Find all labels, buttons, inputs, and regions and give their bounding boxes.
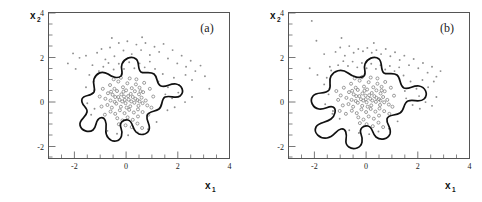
data-point [140,49,142,51]
data-point [347,65,349,67]
data-point [355,95,358,98]
y-ticklabel-a-3: -2 [37,143,44,152]
y-axis-ticks-a [49,13,56,157]
data-point [389,86,392,89]
data-point [339,47,341,49]
data-point [352,105,355,108]
data-point [135,44,137,46]
data-point [398,66,400,68]
data-point [123,112,126,115]
data-point [433,81,435,83]
data-point [96,52,98,54]
data-point [133,101,136,104]
data-point [383,101,386,104]
data-point [132,111,135,114]
y-axis-title-a: x [30,10,36,21]
data-point [387,103,390,106]
data-point [394,70,396,72]
data-point [101,87,104,90]
data-point [358,95,361,98]
data-point [130,100,133,103]
data-point [419,108,421,110]
data-point [141,126,144,129]
data-point [102,66,104,68]
data-point [384,69,386,71]
data-point [388,112,391,115]
data-point [141,102,144,105]
data-point [113,55,115,57]
y-ticklabel-b-3: -2 [277,143,284,152]
data-point [391,105,394,108]
data-point [337,98,340,101]
data-point [194,70,196,72]
data-point [125,106,128,109]
data-point [176,62,178,64]
data-point [421,79,423,81]
data-point [399,59,401,61]
data-point [347,103,350,106]
data-point [118,109,121,112]
data-point [344,112,347,115]
data-point [118,42,120,44]
data-point [167,86,169,88]
data-point [149,61,151,63]
data-point [166,109,168,111]
data-point [373,42,375,44]
data-point [315,40,317,42]
data-point [106,92,109,95]
data-point [352,61,354,63]
data-point [154,46,156,48]
scatter-inside-a [98,76,155,129]
data-point [164,93,166,95]
data-point [323,83,325,85]
data-point [366,47,368,49]
data-point [366,67,368,69]
data-point [324,103,326,105]
data-point [358,132,360,134]
data-point [376,77,379,80]
data-point [369,107,372,110]
data-point [146,104,149,107]
plot-a: 4 2 0 -2 -2 0 2 4 x 2 x 1 (a) [0,0,241,202]
data-point [374,100,377,103]
data-point [356,88,359,91]
data-point [364,94,367,97]
data-point [85,55,87,57]
data-point [141,36,143,38]
data-point [332,110,334,112]
data-point [101,48,103,50]
data-point [138,86,141,89]
data-point [357,116,360,119]
panel-a: 4 2 0 -2 -2 0 2 4 x 2 x 1 (a) [0,0,241,202]
data-point [184,101,186,103]
data-point [110,90,113,93]
data-point [137,104,140,107]
data-point [354,99,357,102]
x-ticklabel-a-3: 4 [228,162,232,171]
data-point [131,118,134,121]
data-point [361,104,364,107]
data-point [378,114,381,117]
data-point [116,90,119,93]
data-point [167,58,169,60]
data-point [72,52,74,54]
data-point [148,87,151,90]
data-point [128,77,131,80]
data-point [208,88,210,90]
data-point [404,90,406,92]
data-point [413,58,415,60]
data-point [412,104,414,106]
data-point [75,68,77,70]
data-point [342,86,345,89]
data-point [200,65,202,67]
data-point [329,66,331,68]
data-point [370,63,372,65]
data-point [440,70,442,72]
data-point [375,49,377,51]
data-point [371,52,373,54]
data-point [351,89,354,92]
data-point [431,105,433,107]
data-point [435,76,437,78]
data-point [311,20,313,22]
data-point [108,62,110,64]
